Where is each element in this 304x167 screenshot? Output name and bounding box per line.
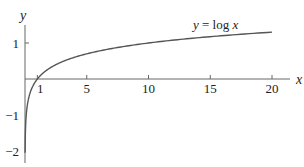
log-chart: 15101520 1−1−2 x y y = log x: [0, 0, 304, 167]
x-tick-label: 1: [37, 81, 44, 96]
x-axis-label: x: [295, 72, 303, 87]
x-tick-label: 20: [266, 81, 279, 96]
curve-annotation: y = log x: [191, 17, 238, 32]
y-tick-label: −2: [5, 144, 19, 159]
y-tick-label: −1: [5, 108, 19, 123]
x-tick-label: 5: [84, 81, 91, 96]
annotation-eq: = log: [199, 17, 233, 32]
x-ticks: 15101520: [37, 75, 278, 96]
y-tick-label: 1: [13, 36, 20, 51]
y-axis-label: y: [18, 8, 27, 23]
x-tick-label: 15: [204, 81, 217, 96]
axes: [25, 25, 290, 163]
x-tick-label: 10: [142, 81, 155, 96]
annotation-x: x: [231, 17, 238, 32]
